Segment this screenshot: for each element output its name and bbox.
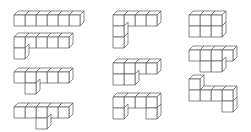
cube-front-face (124, 74, 135, 85)
cube-front-face (124, 63, 135, 74)
cube-front-face (211, 50, 222, 61)
cube-front-face (58, 72, 69, 83)
cube-front-face (189, 79, 200, 90)
cube-front-face (47, 72, 58, 83)
cube-front-face (113, 15, 124, 26)
cube-front-face (211, 15, 222, 26)
cube-front-face (25, 15, 36, 26)
fig-1 (14, 11, 84, 26)
cube-front-face (200, 90, 211, 101)
cube-front-face (113, 74, 124, 85)
cube (58, 68, 73, 83)
cube-front-face (36, 118, 47, 129)
cube-front-face (14, 37, 25, 48)
cube-front-face (189, 26, 200, 37)
cube-front-face (189, 90, 200, 101)
cube-front-face (14, 72, 25, 83)
cube-front-face (189, 50, 200, 61)
cube (58, 33, 73, 48)
cube-front-face (113, 37, 124, 48)
cube-front-face (135, 97, 146, 108)
cube-front-face (146, 97, 157, 108)
cube-front-face (47, 15, 58, 26)
fig-8 (189, 11, 226, 37)
cube-front-face (14, 107, 25, 118)
cube-front-face (58, 107, 69, 118)
cube-front-face (25, 107, 36, 118)
cube-front-face (36, 15, 47, 26)
cube-front-face (146, 15, 157, 26)
cube-front-face (113, 97, 124, 108)
cube (146, 59, 161, 74)
cube-front-face (58, 37, 69, 48)
cube (58, 103, 73, 118)
cube-front-face (58, 15, 69, 26)
cube-front-face (25, 83, 36, 94)
cube (69, 11, 84, 26)
cube-front-face (36, 37, 47, 48)
cube (113, 74, 124, 85)
cube-front-face (200, 61, 211, 72)
cube (222, 86, 237, 101)
cube-front-face (211, 90, 222, 101)
cube-front-face (25, 72, 36, 83)
cube-front-face (222, 101, 233, 112)
cube-front-face (211, 61, 222, 72)
cube (200, 61, 211, 72)
cube-front-face (200, 15, 211, 26)
cube-figures-diagram (0, 0, 251, 132)
cube-front-face (200, 50, 211, 61)
cube-front-face (211, 26, 222, 37)
cube-front-face (135, 15, 146, 26)
cube (146, 93, 161, 108)
cube (211, 11, 226, 26)
cube-front-face (146, 108, 157, 119)
cube-front-face (189, 15, 200, 26)
cube-front-face (36, 107, 47, 118)
cube-front-face (113, 63, 124, 74)
cube (189, 26, 200, 37)
cube (189, 75, 204, 90)
cube-front-face (146, 63, 157, 74)
cube (189, 90, 200, 101)
cube-front-face (113, 26, 124, 37)
cube-front-face (200, 26, 211, 37)
cube (200, 26, 211, 37)
cube (146, 11, 161, 26)
cube-front-face (14, 48, 25, 59)
cube-front-face (69, 15, 80, 26)
cube-front-face (222, 90, 233, 101)
cube-front-face (47, 37, 58, 48)
cube-front-face (14, 15, 25, 26)
cube-front-face (113, 108, 124, 119)
